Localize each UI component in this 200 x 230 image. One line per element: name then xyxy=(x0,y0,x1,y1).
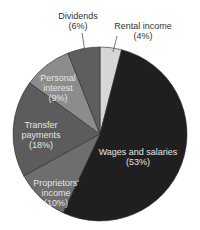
label-dividends: Dividends (6%) xyxy=(58,11,98,31)
label-proprietors-name-2: income xyxy=(33,188,79,198)
label-wages-value: (53%) xyxy=(99,157,178,167)
label-transfer-value: (18%) xyxy=(21,140,60,150)
label-proprietors-value: (10%) xyxy=(33,198,79,208)
label-proprietors-name-1: Proprietors' xyxy=(33,178,79,188)
label-transfer-name-1: Transfer xyxy=(21,120,60,130)
label-rental-income-value: (4%) xyxy=(114,31,172,41)
label-interest-value: (9%) xyxy=(40,93,76,103)
label-wages-name: Wages and salaries xyxy=(99,147,178,157)
label-personal-interest: Personal interest (9%) xyxy=(40,73,76,103)
label-transfer-payments: Transfer payments (18%) xyxy=(21,120,60,150)
label-rental-income-name: Rental income xyxy=(114,21,172,31)
label-dividends-value: (6%) xyxy=(58,21,98,31)
label-transfer-name-2: payments xyxy=(21,130,60,140)
label-wages-and-salaries: Wages and salaries (53%) xyxy=(99,147,178,167)
label-interest-name-1: Personal xyxy=(40,73,76,83)
label-dividends-name: Dividends xyxy=(58,11,98,21)
label-interest-name-2: interest xyxy=(40,83,76,93)
label-rental-income: Rental income (4%) xyxy=(114,21,172,41)
label-proprietors-income: Proprietors' income (10%) xyxy=(33,178,79,208)
